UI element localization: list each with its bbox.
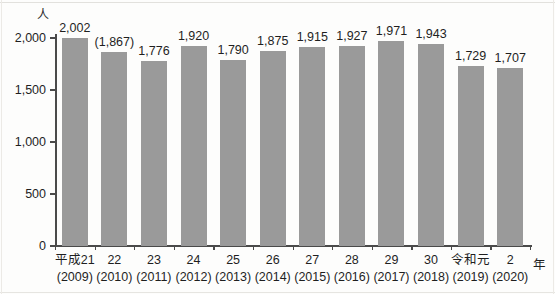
bar-value-label: 2,002 (59, 21, 90, 35)
bar[interactable]: 1,707 (497, 68, 523, 246)
bar[interactable]: 1,875 (260, 51, 286, 246)
bar-value-label: 1,927 (336, 29, 367, 43)
bar[interactable]: 1,971 (378, 41, 404, 246)
bar[interactable]: 1,729 (458, 66, 484, 246)
x-axis-unit-label: 年 (533, 254, 546, 273)
bar-value-label: 1,920 (178, 29, 209, 43)
bar-value-label: 1,943 (415, 27, 446, 41)
x-axis-category-label: 2(2020) (487, 252, 533, 286)
bar-value-label: 1,790 (217, 43, 248, 57)
bar-value-label: 1,915 (297, 30, 328, 44)
bar-value-label: 1,707 (495, 51, 526, 65)
bar[interactable]: 1,943 (418, 44, 444, 246)
page-frame-top-rule (0, 2, 555, 3)
bar[interactable]: 1,915 (299, 47, 325, 246)
y-axis-tick-label: 1,000 (0, 135, 46, 149)
bar[interactable]: 1,776 (141, 61, 167, 246)
page-frame-bottom-rule (0, 292, 555, 293)
bar-value-label: 1,875 (257, 34, 288, 48)
bar[interactable]: 1,790 (220, 60, 246, 246)
x-axis-tick (530, 245, 531, 250)
bar[interactable]: (1,867) (101, 52, 127, 246)
x-axis-era-label: 2 (487, 252, 533, 269)
chart-figure: 人 05001,0001,5002,000 2,002(1,867)1,7761… (0, 0, 555, 294)
bar[interactable]: 2,002 (62, 38, 88, 246)
bar-value-label: (1,867) (95, 35, 135, 49)
bar[interactable]: 1,920 (181, 46, 207, 246)
y-axis-unit-label: 人 (37, 5, 49, 22)
page-frame-right-rule (553, 0, 554, 294)
plot-area: 2,002(1,867)1,7761,9201,7901,8751,9151,9… (55, 38, 530, 246)
y-axis-tick-label: 500 (0, 187, 46, 201)
y-axis-tick-label: 0 (0, 239, 46, 253)
y-axis-tick-label: 2,000 (0, 31, 46, 45)
y-axis-tick-label: 1,500 (0, 83, 46, 97)
bar-value-label: 1,971 (376, 24, 407, 38)
bar[interactable]: 1,927 (339, 46, 365, 246)
bar-value-label: 1,729 (455, 49, 486, 63)
x-axis-western-year-label: (2020) (487, 269, 533, 286)
bar-value-label: 1,776 (138, 44, 169, 58)
